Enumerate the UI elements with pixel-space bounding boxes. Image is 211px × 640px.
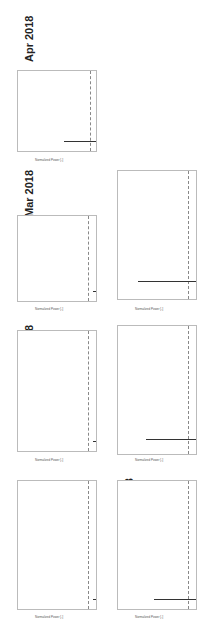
chart-title: Apr 2018 (23, 16, 35, 62)
chart-apr-2018: Apr 2018 Normalized Power [-] (5, 10, 105, 160)
threshold-line (90, 71, 91, 151)
power-axis-label: Normalized Power [-] (35, 158, 63, 162)
plot-area (17, 480, 97, 610)
chart-mar-2018: Mar 2018 Normalized Power [-] (5, 165, 105, 315)
peak-spike (146, 439, 196, 440)
chart-jul-2018: Jul 2018 Normalized Power [-] (105, 165, 205, 315)
threshold-line (188, 171, 189, 299)
chart-jun-2018: Jun 2018 Normalized Power [-] (105, 320, 205, 470)
peak-spike (93, 441, 96, 442)
peak-spike (154, 599, 196, 600)
plot-area (117, 325, 197, 455)
power-axis-label: Normalized Power [-] (135, 307, 163, 311)
threshold-line (188, 481, 189, 609)
peak-spike (64, 141, 96, 142)
peak-spike (93, 599, 96, 600)
plot-area (117, 480, 197, 610)
threshold-line (88, 331, 89, 451)
peak-spike (138, 281, 196, 282)
chart-title: Mar 2018 (23, 170, 35, 217)
plot-area (17, 70, 97, 152)
chart-jan-2018: Jan 2018 Normalized Power [-] (5, 475, 105, 625)
power-axis-label: Normalized Power [-] (35, 307, 63, 311)
plot-area (17, 215, 97, 302)
threshold-line (88, 481, 89, 609)
plot-area (17, 330, 97, 452)
power-axis-label: Normalized Power [-] (35, 458, 63, 462)
threshold-line (88, 216, 89, 301)
chart-feb-2018: Feb 2018 Normalized Power [-] (5, 320, 105, 470)
chart-may-2018: May 2018 Normalized Power [-] (105, 475, 205, 625)
threshold-line (188, 326, 189, 454)
power-axis-label: Normalized Power [-] (35, 615, 63, 619)
power-axis-label: Normalized Power [-] (135, 458, 163, 462)
power-axis-label: Normalized Power [-] (135, 615, 163, 619)
peak-spike (93, 291, 96, 292)
plot-area (117, 170, 197, 300)
